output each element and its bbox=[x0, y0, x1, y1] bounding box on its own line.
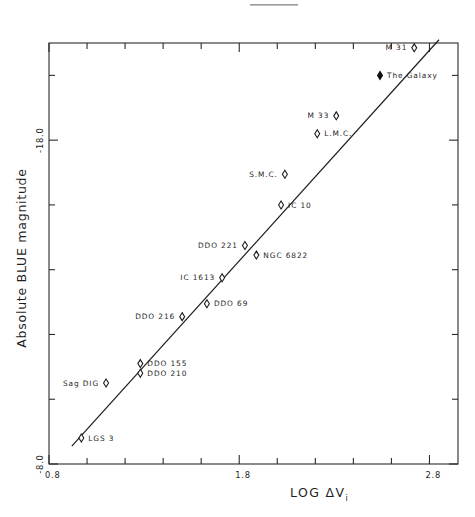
data-point-label: S.M.C. bbox=[249, 170, 278, 179]
marker-open-diamond-icon bbox=[79, 434, 84, 442]
plot-frame bbox=[49, 43, 458, 464]
marker-open-diamond-icon bbox=[334, 112, 339, 120]
fit-line[interactable] bbox=[72, 40, 439, 446]
marker-open-diamond-icon bbox=[204, 300, 209, 308]
y-axis-title-text: Absolute BLUE magnitude bbox=[14, 168, 29, 347]
marker-filled-diamond-icon bbox=[378, 71, 383, 79]
scatter-plot: M 31The GalaxyM 33L.M.C.S.M.C.IC 10DDO 2… bbox=[0, 0, 475, 517]
data-point[interactable]: M 31 bbox=[386, 43, 417, 52]
x-tick-label: 1.8 bbox=[235, 470, 251, 480]
data-point[interactable]: NGC 6822 bbox=[254, 251, 308, 260]
marker-open-diamond-icon bbox=[254, 251, 259, 259]
data-point-label: M 31 bbox=[386, 43, 408, 52]
data-point[interactable]: S.M.C. bbox=[249, 170, 287, 179]
y-tick-label: -8.0 bbox=[35, 454, 45, 473]
data-point-label: DDO 155 bbox=[147, 359, 187, 368]
data-point[interactable]: DDO 69 bbox=[204, 299, 248, 308]
data-point-label: NGC 6822 bbox=[263, 251, 308, 260]
data-point[interactable]: DDO 216 bbox=[135, 312, 184, 321]
data-point[interactable]: DDO 210 bbox=[138, 369, 187, 378]
data-point-label: L.M.C. bbox=[324, 129, 352, 138]
marker-open-diamond-icon bbox=[220, 274, 225, 282]
marker-open-diamond-icon bbox=[315, 130, 320, 138]
data-point[interactable]: DDO 155 bbox=[138, 359, 187, 368]
data-point-label: M 33 bbox=[308, 111, 330, 120]
marker-open-diamond-icon bbox=[180, 313, 185, 321]
data-point-label: IC 1613 bbox=[180, 273, 215, 282]
marker-open-diamond-icon bbox=[138, 369, 143, 377]
data-point[interactable]: M 33 bbox=[308, 111, 339, 120]
x-axis-title: LOG ΔVi bbox=[290, 485, 349, 503]
axis-ticks bbox=[49, 43, 458, 464]
figure-panel: M 31The GalaxyM 33L.M.C.S.M.C.IC 10DDO 2… bbox=[0, 0, 475, 517]
data-point[interactable]: L.M.C. bbox=[315, 129, 353, 138]
x-axis-title-subscript: i bbox=[346, 494, 350, 503]
y-axis-title: Absolute BLUE magnitude bbox=[14, 168, 29, 347]
svg-text:LOG ΔVi: LOG ΔVi bbox=[290, 485, 349, 503]
data-point-label: LGS 3 bbox=[88, 434, 114, 443]
marker-open-diamond-icon bbox=[279, 201, 284, 209]
marker-open-diamond-icon bbox=[104, 379, 109, 387]
data-point-label: DDO 216 bbox=[135, 312, 175, 321]
data-point[interactable]: IC 10 bbox=[279, 201, 312, 210]
data-point[interactable]: DDO 221 bbox=[198, 241, 247, 250]
y-tick-label: -18.0 bbox=[35, 127, 45, 152]
x-axis-title-text: LOG ΔV bbox=[290, 485, 346, 500]
marker-open-diamond-icon bbox=[242, 241, 247, 249]
x-tick-label: 0.8 bbox=[45, 470, 61, 480]
data-point[interactable]: LGS 3 bbox=[79, 434, 115, 443]
data-point-label: DDO 69 bbox=[214, 299, 248, 308]
data-point-label: DDO 221 bbox=[198, 241, 238, 250]
x-tick-label: 2.8 bbox=[425, 470, 441, 480]
regression-line[interactable] bbox=[72, 40, 439, 446]
marker-open-diamond-icon bbox=[138, 360, 143, 368]
marker-open-diamond-icon bbox=[282, 170, 287, 178]
data-point-label: DDO 210 bbox=[147, 369, 187, 378]
data-point[interactable]: Sag DIG bbox=[63, 379, 109, 388]
data-point-label: The Galaxy bbox=[386, 71, 438, 80]
data-point-label: IC 10 bbox=[288, 201, 312, 210]
marker-open-diamond-icon bbox=[412, 44, 417, 52]
data-point[interactable]: The Galaxy bbox=[378, 71, 438, 80]
data-point[interactable]: IC 1613 bbox=[180, 273, 224, 282]
caption-rule bbox=[250, 4, 298, 6]
data-point-label: Sag DIG bbox=[63, 379, 99, 388]
